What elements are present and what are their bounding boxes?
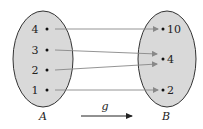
codomain-dot-2 [162,89,165,92]
set-a-ellipse [13,11,73,107]
codomain-element-2: 2 [167,84,174,97]
function-label: g [101,100,108,113]
set-b-label: B [161,110,170,123]
domain-element-1: 1 [32,84,39,97]
codomain-dot-4 [162,58,165,61]
domain-dot-3 [46,49,49,52]
domain-dot-1 [46,89,49,92]
set-a-label: A [38,110,47,123]
domain-element-3: 3 [32,44,39,57]
codomain-dot-10 [162,28,165,31]
domain-element-4: 4 [32,23,39,36]
domain-dot-4 [46,28,49,31]
domain-dot-2 [46,69,49,72]
codomain-element-4: 4 [167,53,174,66]
codomain-element-10: 10 [167,23,181,36]
function-mapping-diagram: 4 3 2 1 10 4 2 A B g [0,0,203,129]
domain-element-2: 2 [32,64,39,77]
